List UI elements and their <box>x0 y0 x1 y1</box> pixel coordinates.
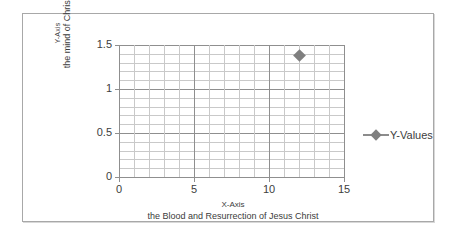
gridline-minor-horizontal <box>119 71 344 72</box>
plot-area <box>119 45 344 177</box>
chart-legend[interactable]: Y-Values <box>363 126 433 144</box>
gridline-minor-horizontal <box>119 115 344 116</box>
gridline-minor-vertical <box>224 45 225 177</box>
gridline-major-horizontal <box>119 133 344 134</box>
y-axis-tick-label: 0 <box>106 171 112 182</box>
gridline-major-horizontal <box>119 89 344 90</box>
y-axis-title: Y-Axis the mind of Christ <box>53 0 77 83</box>
gridline-minor-vertical <box>299 45 300 177</box>
gridline-minor-vertical <box>179 45 180 177</box>
x-axis-line <box>119 177 345 178</box>
x-axis-title: X-Axis the Blood and Resurrection of Jes… <box>43 200 423 222</box>
y-axis-tick-label: 1 <box>106 83 112 94</box>
gridline-major-vertical <box>344 45 345 177</box>
gridline-minor-horizontal <box>119 142 344 143</box>
chart-frame: 00.511.5 051015 Y-Axis the mind of Chris… <box>22 13 434 222</box>
gridline-minor-vertical <box>239 45 240 177</box>
x-axis-tick <box>269 178 270 182</box>
gridline-minor-vertical <box>284 45 285 177</box>
x-axis-title-line2: the Blood and Resurrection of Jesus Chri… <box>43 210 423 222</box>
gridline-minor-horizontal <box>119 159 344 160</box>
x-axis-tick <box>119 178 120 182</box>
gridline-minor-vertical <box>149 45 150 177</box>
y-axis-tick <box>115 133 119 134</box>
x-axis-tick <box>194 178 195 182</box>
gridline-minor-vertical <box>329 45 330 177</box>
gridline-minor-horizontal <box>119 107 344 108</box>
y-axis-tick <box>115 89 119 90</box>
gridline-minor-vertical <box>314 45 315 177</box>
y-axis-tick-label: 0.5 <box>97 127 112 138</box>
gridline-minor-horizontal <box>119 54 344 55</box>
legend-item-label: Y-Values <box>389 129 433 141</box>
gridline-minor-horizontal <box>119 80 344 81</box>
y-axis-tick-label: 1.5 <box>97 39 112 50</box>
diamond-marker-icon <box>363 129 389 141</box>
y-axis-title-line2: the mind of Christ <box>62 0 73 83</box>
gridline-minor-vertical <box>209 45 210 177</box>
gridline-minor-horizontal <box>119 124 344 125</box>
gridline-minor-horizontal <box>119 63 344 64</box>
gridline-minor-vertical <box>254 45 255 177</box>
x-axis-tick-label: 5 <box>179 184 209 195</box>
x-axis-title-line1: X-Axis <box>43 200 423 210</box>
gridline-minor-horizontal <box>119 151 344 152</box>
x-axis-tick-label: 10 <box>254 184 284 195</box>
gridline-major-horizontal <box>119 45 344 46</box>
gridline-minor-horizontal <box>119 98 344 99</box>
x-axis-tick-labels: 051015 <box>23 184 435 200</box>
y-axis-title-line1: Y-Axis <box>53 0 62 83</box>
gridline-minor-horizontal <box>119 168 344 169</box>
y-axis-line <box>119 45 120 178</box>
gridline-major-vertical <box>269 45 270 177</box>
x-axis-tick-label: 0 <box>104 184 134 195</box>
gridline-minor-vertical <box>134 45 135 177</box>
y-axis-tick <box>115 45 119 46</box>
gridline-major-vertical <box>194 45 195 177</box>
x-axis-tick <box>344 178 345 182</box>
gridline-minor-vertical <box>164 45 165 177</box>
x-axis-tick-label: 15 <box>329 184 359 195</box>
